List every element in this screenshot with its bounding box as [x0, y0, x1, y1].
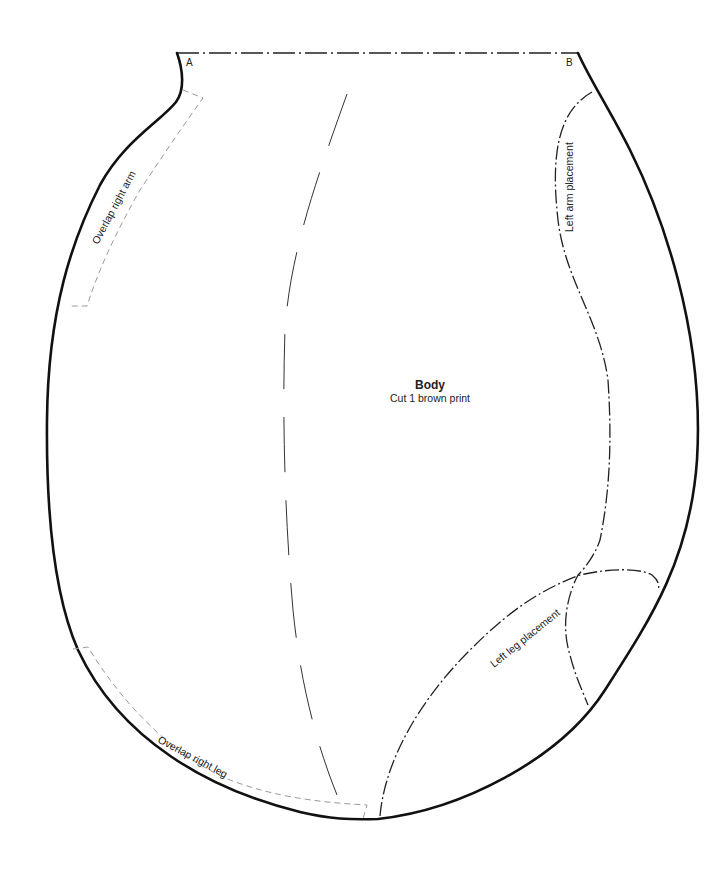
- overlap-right-leg-line: [73, 647, 367, 822]
- left-leg-placement-label: Left leg placement: [488, 606, 562, 669]
- body-pattern-diagram: A B Overlap right arm Left arm placement…: [0, 0, 714, 872]
- overlap-right-arm-line: [69, 90, 203, 306]
- overlap-right-leg-label: Overlap right leg: [156, 733, 230, 780]
- grainline: [284, 94, 347, 795]
- cutting-instruction: Cut 1 brown print: [360, 392, 500, 405]
- left-arm-placement-label: Left arm placement: [563, 142, 575, 232]
- piece-name: Body: [360, 378, 500, 392]
- piece-title-block: Body Cut 1 brown print: [360, 378, 500, 405]
- body-outline: [47, 53, 698, 819]
- corner-label-a: A: [186, 57, 193, 68]
- corner-label-b: B: [566, 57, 573, 68]
- left-leg-placement-line: [380, 570, 659, 816]
